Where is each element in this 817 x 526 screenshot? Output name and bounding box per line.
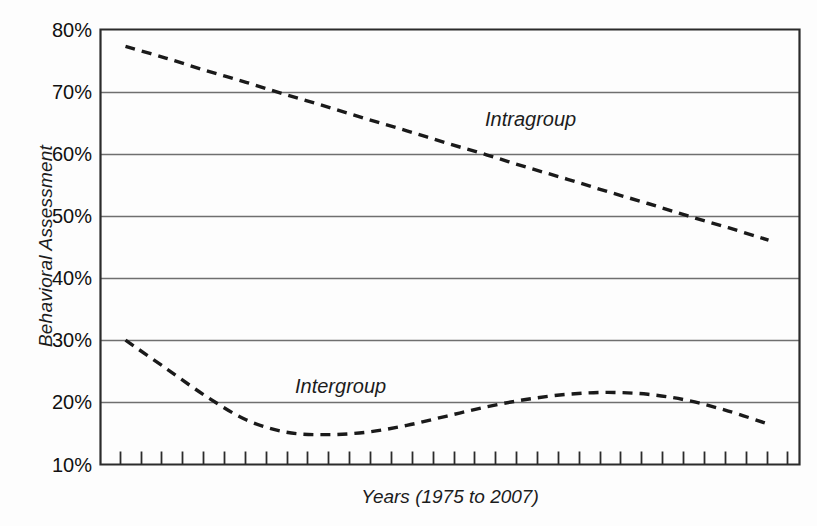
plot-frame [101, 30, 800, 465]
series-line-intragroup [126, 46, 769, 240]
series-line-intergroup [126, 340, 769, 434]
x-axis-ticks [121, 452, 788, 465]
series-label-intergroup: Intergroup [295, 375, 386, 398]
series-label-intragroup: Intragroup [485, 108, 576, 131]
gridlines [101, 93, 800, 403]
chart-container: Behavioral Assessment 80%70%60%50%40%30%… [0, 0, 817, 526]
plot-area [0, 0, 817, 526]
series-lines [126, 46, 769, 434]
x-axis-title: Years (1975 to 2007) [100, 486, 800, 508]
